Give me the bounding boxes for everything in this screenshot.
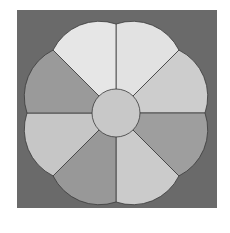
flower-quilt-figure <box>0 0 230 233</box>
center-circle <box>92 89 140 137</box>
